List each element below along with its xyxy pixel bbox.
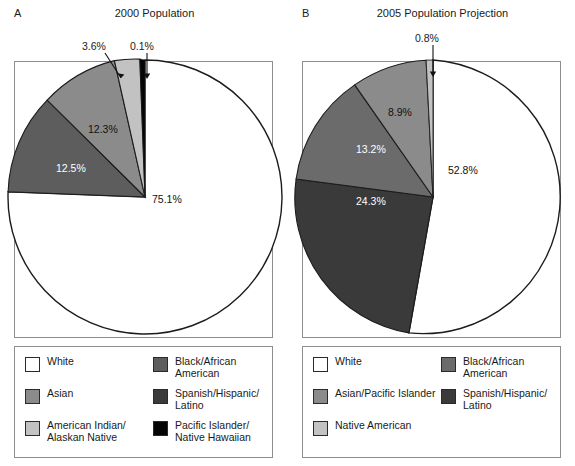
legend-item-spanish-hispanic-latino-b: Spanish/Hispanic/ Latino [441,388,554,420]
legend-swatch-asian-pacific-islander-b [313,389,328,404]
legend-swatch-black-african-american-b [441,357,456,372]
panel-b: B 2005 Population Projection 0.8% 8 [288,0,575,466]
slice-label-b-white: 52.8% [448,165,478,176]
legend-swatch-spanish-hispanic-latino-b [441,389,456,404]
legend-swatch-black-african-american-a [153,357,168,372]
legend-swatch-asian-a [25,389,40,404]
legend-label-black-african-american-b: Black/African American [463,356,524,379]
legend-swatch-pacific-islander-a [153,421,168,436]
panel-b-title: 2005 Population Projection [288,8,575,19]
slice-label-b-asian-pacific: 8.9% [388,107,412,118]
legend-label-spanish-hispanic-latino-a: Spanish/Hispanic/ Latino [175,388,259,411]
legend-item-american-indian-a: American Indian/ Alaskan Native [25,420,149,452]
legend-swatch-white-b [313,357,328,372]
legend-item-black-african-american-a: Black/African American [153,356,266,388]
legend-label-native-american-b: Native American [335,420,411,432]
figure-root: A 2000 Population [0,0,575,466]
legend-item-white-b: White [313,356,437,388]
legend-a: White Black/African American Asian Spani… [14,346,273,458]
slice-label-b-spanish: 24.3% [356,196,386,207]
slice-label-a-black: 12.5% [56,163,86,174]
legend-item-asian-pacific-islander-b: Asian/Pacific Islander [313,388,437,420]
legend-item-spanish-hispanic-latino-a: Spanish/Hispanic/ Latino [153,388,266,420]
pie-chart-a [14,61,273,338]
legend-label-asian-a: Asian [47,388,73,400]
legend-item-pacific-islander-a: Pacific Islander/ Native Hawaiian [153,420,266,452]
legend-label-black-african-american-a: Black/African American [175,356,236,379]
legend-item-white-a: White [25,356,149,388]
legend-swatch-spanish-hispanic-latino-a [153,389,168,404]
callout-a-1: 3.6% [82,41,106,52]
slice-label-a-asian: 12.3% [88,124,118,135]
pie-chart-b [302,61,561,338]
legend-swatch-white-a [25,357,40,372]
slice-label-b-black: 13.2% [356,144,386,155]
panel-a-title: 2000 Population [0,8,287,19]
legend-swatch-american-indian-a [25,421,40,436]
pie-b-svg [302,61,561,338]
legend-item-black-african-american-b: Black/African American [441,356,554,388]
panel-a: A 2000 Population [0,0,287,466]
legend-label-pacific-islander-a: Pacific Islander/ Native Hawaiian [175,420,251,443]
legend-item-native-american-b: Native American [313,420,437,452]
legend-label-spanish-hispanic-latino-b: Spanish/Hispanic/ Latino [463,388,547,411]
legend-item-asian-a: Asian [25,388,149,420]
legend-label-asian-pacific-islander-b: Asian/Pacific Islander [335,388,435,400]
callout-a-2: 0.1% [130,41,154,52]
legend-swatch-native-american-b [313,421,328,436]
legend-label-white-b: White [335,356,362,368]
legend-label-white-a: White [47,356,74,368]
legend-label-american-indian-a: American Indian/ Alaskan Native [47,420,126,443]
slice-label-a-white: 75.1% [152,194,182,205]
callout-b-1: 0.8% [415,33,439,44]
pie-a-svg [14,61,273,338]
legend-b: White Black/African American Asian/Pacif… [302,346,561,458]
